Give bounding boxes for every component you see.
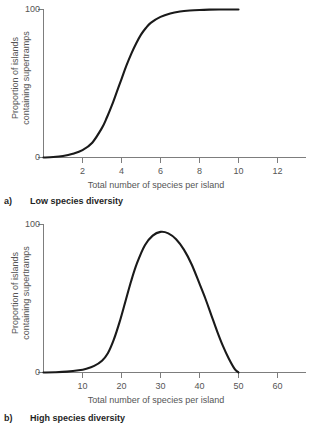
chart-a-ylabel-line1: Proportion of islands [10,4,21,152]
chart-a-xtick-label-12: 12 [267,166,288,176]
chart-b-xtick-label-30: 30 [150,381,171,391]
chart-a-xtick-label-2: 2 [72,166,93,176]
caption-a-text: Low species diversity [30,196,123,206]
chart-b-xtick-label-10: 10 [72,381,93,391]
chart-b-ytick-label-0: 0 [16,367,40,377]
chart-a-data-curve [44,9,239,157]
caption-a-letter: a) [4,196,30,206]
chart-a-xtick-label-10: 10 [228,166,249,176]
chart-b-ylabel-line2: containing supertramps [21,219,32,367]
chart-a-xtick-label-4: 4 [111,166,132,176]
chart-a-ytick-label-100: 100 [16,4,40,14]
chart-a-xtick-label-8: 8 [189,166,210,176]
chart-b-xtick-label-50: 50 [228,381,249,391]
chart-panel-b: Proportion of islands containing supertr… [0,215,312,411]
caption-b-text: High species diversity [30,413,125,423]
chart-b-xtick-label-40: 40 [189,381,210,391]
chart-b-ytick-label-100: 100 [16,219,40,229]
caption-a: a)Low species diversity [4,196,123,206]
chart-panel-a: Proportion of islands containing supertr… [0,0,312,196]
chart-b-xlabel: Total number of species per island [0,395,312,405]
chart-b-data-curve [44,232,239,373]
chart-b-xtick-label-20: 20 [111,381,132,391]
chart-a-ytick-label-0: 0 [16,152,40,162]
chart-a-xtick-label-6: 6 [150,166,171,176]
caption-b: b)High species diversity [4,413,125,423]
chart-b-xtick-label-60: 60 [267,381,288,391]
chart-a-ylabel-line2: containing supertramps [21,4,32,152]
chart-b-ylabel-line1: Proportion of islands [10,219,21,367]
caption-b-letter: b) [4,413,30,423]
chart-a-xlabel: Total number of species per island [0,180,312,190]
